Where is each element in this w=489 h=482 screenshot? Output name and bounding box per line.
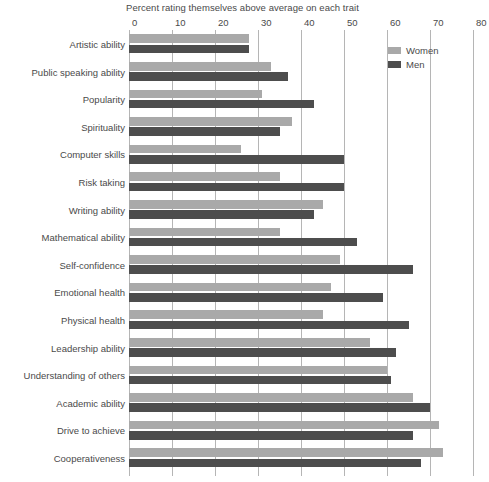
bar-women: [129, 90, 262, 99]
bar-men: [129, 72, 288, 81]
x-tick-label-50: 50: [347, 17, 358, 29]
bar-row: Academic ability: [0, 392, 485, 420]
bar-row: Emotional health: [0, 281, 485, 309]
bar-women: [129, 448, 443, 457]
bar-row: Self-confidence: [0, 254, 485, 282]
bar-women: [129, 145, 241, 154]
category-label: Academic ability: [0, 398, 125, 410]
category-label: Self-confidence: [0, 260, 125, 272]
x-tick-label-0: 0: [132, 17, 137, 29]
bar-row: Understanding of others: [0, 364, 485, 392]
bar-men: [129, 45, 249, 54]
bar-men: [129, 127, 280, 136]
category-label: Mathematical ability: [0, 232, 125, 244]
bar-row: Drive to achieve: [0, 419, 485, 447]
category-label: Drive to achieve: [0, 425, 125, 437]
bar-men: [129, 238, 357, 247]
bar-women: [129, 421, 439, 430]
legend-item-men: Men: [388, 58, 424, 71]
bar-women: [129, 62, 271, 71]
bar-men: [129, 210, 314, 219]
category-label: Computer skills: [0, 149, 125, 161]
bar-row: Writing ability: [0, 199, 485, 227]
bar-women: [129, 255, 340, 264]
bar-women: [129, 366, 387, 375]
x-tick-label-70: 70: [433, 17, 444, 29]
legend-label: Women: [406, 45, 439, 56]
category-label: Writing ability: [0, 205, 125, 217]
x-tick-label-10: 10: [175, 17, 186, 29]
x-tick-label-40: 40: [304, 17, 315, 29]
bar-women: [129, 117, 292, 126]
category-label: Artistic ability: [0, 39, 125, 51]
bar-row: Popularity: [0, 88, 485, 116]
bar-men: [129, 293, 383, 302]
category-label: Spirituality: [0, 122, 125, 134]
bar-women: [129, 283, 331, 292]
bar-women: [129, 393, 413, 402]
bar-row: Cooperativeness: [0, 447, 485, 475]
bar-row: Leadership ability: [0, 337, 485, 365]
chart-title: Percent rating themselves above average …: [0, 2, 485, 13]
category-label: Leadership ability: [0, 343, 125, 355]
bar-men: [129, 265, 413, 274]
bar-men: [129, 348, 396, 357]
bar-women: [129, 310, 323, 319]
x-tick-label-20: 20: [218, 17, 229, 29]
bar-men: [129, 459, 421, 468]
bar-row: Mathematical ability: [0, 226, 485, 254]
category-label: Physical health: [0, 315, 125, 327]
bar-men: [129, 403, 430, 412]
bar-women: [129, 338, 370, 347]
category-label: Cooperativeness: [0, 453, 125, 465]
x-axis-tick-labels: 01020304050607080: [129, 17, 489, 30]
category-label: Risk taking: [0, 177, 125, 189]
bar-men: [129, 155, 344, 164]
category-label: Public speaking ability: [0, 67, 125, 79]
bar-row: Risk taking: [0, 171, 485, 199]
category-label: Emotional health: [0, 287, 125, 299]
category-label: Understanding of others: [0, 370, 125, 382]
legend-item-women: Women: [388, 44, 439, 57]
bar-women: [129, 200, 323, 209]
x-tick-label-30: 30: [261, 17, 272, 29]
legend-swatch-icon: [388, 47, 401, 54]
x-tick-label-80: 80: [476, 17, 487, 29]
legend-label: Men: [406, 59, 424, 70]
bar-row: Spirituality: [0, 116, 485, 144]
bar-women: [129, 34, 249, 43]
bar-men: [129, 321, 409, 330]
bar-men: [129, 376, 391, 385]
x-tick-label-60: 60: [390, 17, 401, 29]
chart-legend: WomenMen: [388, 44, 476, 74]
category-label: Popularity: [0, 94, 125, 106]
bar-rows: Artistic abilityPublic speaking abilityP…: [0, 33, 485, 478]
legend-swatch-icon: [388, 61, 401, 68]
bar-men: [129, 183, 344, 192]
bar-men: [129, 100, 314, 109]
bar-women: [129, 228, 280, 237]
bar-row: Physical health: [0, 309, 485, 337]
bar-women: [129, 172, 280, 181]
bar-men: [129, 431, 413, 440]
bar-row: Computer skills: [0, 143, 485, 171]
